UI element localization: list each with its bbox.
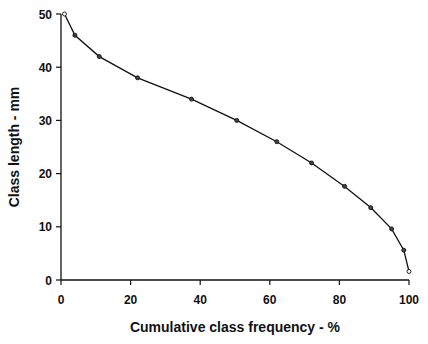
data-point [310, 161, 314, 165]
data-point [73, 33, 77, 37]
x-tick-label: 20 [124, 293, 138, 307]
y-tick-label: 40 [39, 61, 53, 75]
data-point [235, 118, 239, 122]
data-point [190, 97, 194, 101]
tick-labels: 01020304050020406080100 [39, 8, 420, 308]
axes [56, 14, 409, 285]
x-tick-label: 100 [399, 293, 419, 307]
data-point [343, 184, 347, 188]
x-tick-label: 40 [194, 293, 208, 307]
data-point [97, 55, 101, 59]
y-tick-label: 10 [39, 220, 53, 234]
y-tick-label: 20 [39, 167, 53, 181]
data-point [407, 269, 411, 273]
cumulative-frequency-chart: 01020304050020406080100 Cumulative class… [0, 0, 428, 344]
x-tick-label: 80 [333, 293, 347, 307]
data-point [62, 12, 66, 16]
data-point [369, 206, 373, 210]
series-line [65, 14, 410, 272]
y-tick-label: 0 [45, 274, 52, 288]
x-axis-label: Cumulative class frequency - % [130, 319, 341, 335]
x-tick-label: 0 [58, 293, 65, 307]
data-point [136, 76, 140, 80]
data-markers [62, 12, 411, 273]
y-tick-label: 50 [39, 8, 53, 22]
y-axis-label: Class length - mm [6, 87, 22, 208]
data-point [390, 227, 394, 231]
x-tick-label: 60 [263, 293, 277, 307]
data-point [402, 248, 406, 252]
y-tick-label: 30 [39, 114, 53, 128]
data-point [275, 140, 279, 144]
